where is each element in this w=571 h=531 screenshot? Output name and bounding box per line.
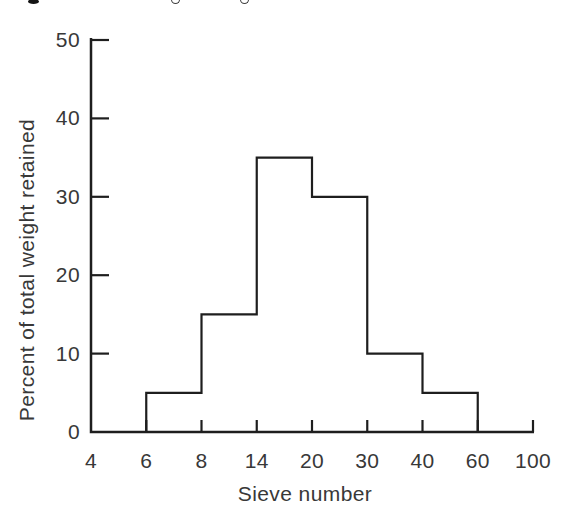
x-tick-label: 4 bbox=[85, 449, 97, 472]
y-axis-title: Percent of total weight retained bbox=[15, 119, 39, 421]
x-tick-label: 40 bbox=[410, 449, 434, 472]
y-tick-label: 30 bbox=[56, 185, 80, 208]
y-tick-label: 50 bbox=[56, 28, 80, 51]
x-axis-title: Sieve number bbox=[238, 482, 372, 506]
y-tick-label: 20 bbox=[56, 263, 80, 286]
x-tick-label: 6 bbox=[140, 449, 152, 472]
axes-lines bbox=[91, 38, 534, 432]
y-tick-label: 40 bbox=[56, 106, 80, 129]
histogram-chart: 010203040504681420304060100 bbox=[0, 0, 571, 531]
x-tick-label: 20 bbox=[300, 449, 324, 472]
y-tick-label: 10 bbox=[56, 342, 80, 365]
x-tick-label: 14 bbox=[245, 449, 269, 472]
x-tick-label: 30 bbox=[355, 449, 379, 472]
x-tick-label: 8 bbox=[195, 449, 207, 472]
histogram-figure: 010203040504681420304060100 Percent of t… bbox=[0, 0, 571, 531]
y-tick-label: 0 bbox=[68, 420, 80, 443]
histogram-outline bbox=[146, 158, 478, 432]
x-tick-label: 100 bbox=[515, 449, 551, 472]
x-tick-label: 60 bbox=[466, 449, 490, 472]
